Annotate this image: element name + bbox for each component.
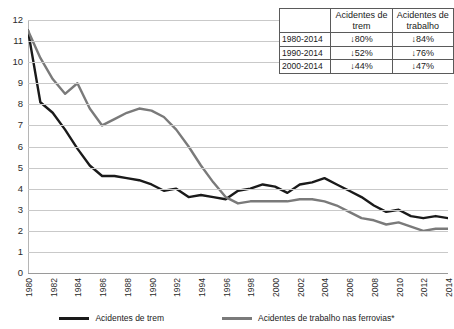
line-chart: 0123456789101112 19801982198419861988199… — [0, 0, 454, 329]
table-row: 1990-2014↓52%↓76% — [280, 46, 454, 60]
table-row: 2000-2014↓44%↓47% — [280, 60, 454, 74]
x-axis-tick-label: 2014 — [444, 278, 454, 297]
x-axis-tick-label: 1982 — [49, 278, 59, 297]
table-col-header-trem: Acidentes de trem — [331, 9, 392, 33]
table-row: 1980-2014↓80%↓84% — [280, 33, 454, 47]
y-axis-tick-label: 4 — [1, 184, 23, 193]
table-cell-period: 1990-2014 — [280, 46, 331, 60]
table-cell-trem: ↓52% — [331, 46, 392, 60]
gridline — [28, 147, 448, 148]
y-axis-labels: 0123456789101112 — [0, 20, 23, 273]
legend-label: Acidentes de trem — [95, 313, 164, 323]
gridline — [28, 252, 448, 253]
gridline — [28, 125, 448, 126]
gridline — [28, 168, 448, 169]
table-cell-trem: ↓80% — [331, 33, 392, 47]
x-axis-baseline — [28, 273, 448, 274]
x-axis-tick-label: 1996 — [222, 278, 232, 297]
table-cell-period: 1980-2014 — [280, 33, 331, 47]
x-axis-tick-label: 1990 — [148, 278, 158, 297]
y-axis-tick-label: 12 — [1, 15, 23, 24]
gridline — [28, 231, 448, 232]
x-axis-tick-label: 1988 — [123, 278, 133, 297]
gridline — [28, 189, 448, 190]
x-axis-tick-label: 2010 — [395, 278, 405, 297]
x-axis-tick-label: 1992 — [172, 278, 182, 297]
legend-label: Acidentes de trabalho nas ferrovias* — [258, 313, 395, 323]
y-axis-tick-label: 7 — [1, 120, 23, 129]
table-body: 1980-2014↓80%↓84%1990-2014↓52%↓76%2000-2… — [280, 33, 454, 74]
table-cell-trabalho: ↓47% — [392, 60, 453, 74]
table-col-header-trabalho: Acidentes de trabalho — [392, 9, 453, 33]
y-axis-tick-label: 6 — [1, 142, 23, 151]
gridline — [28, 104, 448, 105]
x-axis-tick-label: 2000 — [271, 278, 281, 297]
y-axis-tick-label: 0 — [1, 268, 23, 277]
x-axis-tick-label: 1980 — [24, 278, 34, 297]
x-axis-tick-label: 1986 — [98, 278, 108, 297]
x-axis-tick-label: 2012 — [419, 278, 429, 297]
y-axis-tick-label: 11 — [1, 36, 23, 45]
y-axis-tick-label: 10 — [1, 57, 23, 66]
x-axis-tick-label: 2006 — [345, 278, 355, 297]
legend-swatch — [222, 317, 252, 320]
table-header-row: Acidentes de trem Acidentes de trabalho — [280, 9, 454, 33]
summary-table: Acidentes de trem Acidentes de trabalho … — [279, 8, 454, 74]
x-axis-tick-label: 2002 — [296, 278, 306, 297]
gridline — [28, 83, 448, 84]
table-cell-trabalho: ↓76% — [392, 46, 453, 60]
x-axis-tick-label: 2008 — [370, 278, 380, 297]
y-axis-tick-label: 9 — [1, 78, 23, 87]
legend-swatch — [59, 317, 89, 320]
legend-item: Acidentes de trem — [59, 313, 164, 323]
table-cell-trem: ↓44% — [331, 60, 392, 74]
table-cell-period: 2000-2014 — [280, 60, 331, 74]
table-cell-trabalho: ↓84% — [392, 33, 453, 47]
table-corner-cell — [280, 9, 331, 33]
y-axis-tick-label: 5 — [1, 163, 23, 172]
y-axis-tick-label: 3 — [1, 205, 23, 214]
y-axis-tick-label: 2 — [1, 226, 23, 235]
y-axis-tick-label: 1 — [1, 247, 23, 256]
chart-legend: Acidentes de tremAcidentes de trabalho n… — [0, 308, 454, 328]
legend-item: Acidentes de trabalho nas ferrovias* — [222, 313, 395, 323]
gridline — [28, 210, 448, 211]
y-axis-tick-label: 8 — [1, 99, 23, 108]
x-axis-tick-label: 2004 — [320, 278, 330, 297]
x-axis-tick-label: 1994 — [197, 278, 207, 297]
x-axis-tick-label: 1998 — [246, 278, 256, 297]
x-axis-tick-label: 1984 — [73, 278, 83, 297]
